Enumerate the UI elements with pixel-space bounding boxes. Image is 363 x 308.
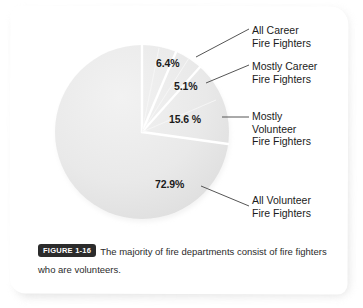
label-all-volunteer: All Volunteer Fire Fighters <box>252 194 311 219</box>
label-mostly-career-line2: Fire Fighters <box>252 73 317 86</box>
leader-line-all-volunteer <box>201 186 249 206</box>
label-mostly-volunteer-line1: Mostly <box>252 110 311 123</box>
label-all-career-line1: All Career <box>252 24 311 37</box>
label-all-career: All Career Fire Fighters <box>252 24 311 49</box>
leader-line-all-career <box>196 29 249 57</box>
leader-line-mostly-career <box>206 65 249 83</box>
label-all-volunteer-line1: All Volunteer <box>252 194 311 207</box>
figure-caption: FIGURE 1-16The majority of fire departme… <box>38 241 333 277</box>
label-mostly-career-line1: Mostly Career <box>252 60 317 73</box>
value-mostly-volunteer: 15.6 % <box>169 113 201 125</box>
figure-number-badge: FIGURE 1-16 <box>38 244 96 257</box>
label-mostly-volunteer-line3: Fire Fighters <box>252 135 311 148</box>
label-all-career-line2: Fire Fighters <box>252 37 311 50</box>
value-all-volunteer: 72.9% <box>155 178 184 190</box>
value-mostly-career: 5.1% <box>174 80 198 92</box>
value-all-career: 6.4% <box>156 57 180 69</box>
label-mostly-career: Mostly Career Fire Fighters <box>252 60 317 85</box>
label-all-volunteer-line2: Fire Fighters <box>252 207 311 220</box>
label-mostly-volunteer-line2: Volunteer <box>252 123 311 136</box>
figure-container: 6.4% 5.1% 15.6 % 72.9% All Career Fire F… <box>0 0 363 308</box>
label-mostly-volunteer: Mostly Volunteer Fire Fighters <box>252 110 311 148</box>
